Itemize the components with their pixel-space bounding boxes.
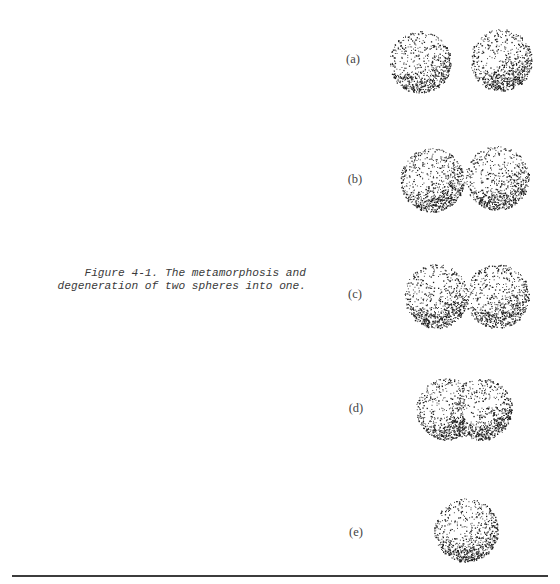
sphere-b-left [401,148,465,213]
sphere-a-right [471,29,533,92]
sphere-d-merged [417,378,513,441]
bottom-rule [12,575,548,577]
sphere-a-left [390,31,452,94]
sphere-b-right [466,146,531,211]
sphere-e-single [434,498,499,562]
spheres-illustration [0,0,560,584]
sphere-c-right [465,265,530,329]
sphere-c-left [405,264,467,329]
